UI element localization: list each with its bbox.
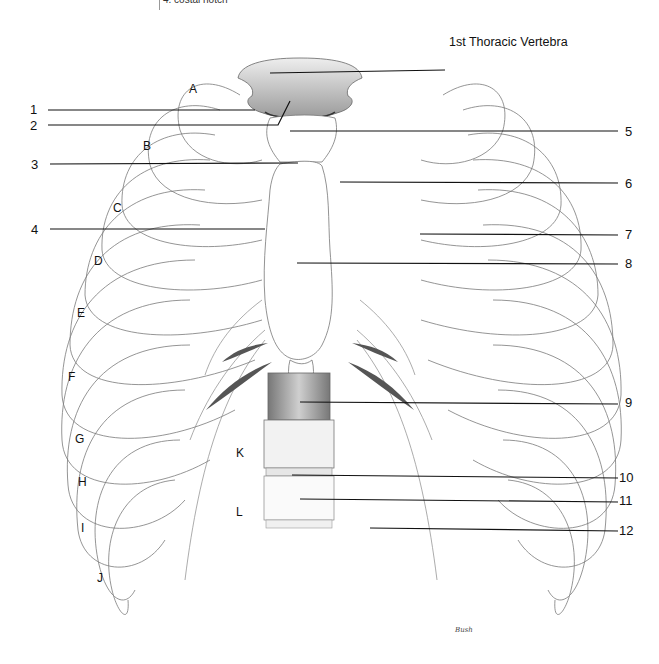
rib-label-j: J [97,572,103,585]
rib-cage-illustration [0,0,659,664]
lumbar-vertebrae [264,373,334,528]
label-number-12: 12 [619,524,633,537]
label-number-7: 7 [625,228,632,241]
label-number-11: 11 [619,494,633,507]
ribs-right [421,84,621,615]
rib-label-e: E [77,307,85,320]
rib-label-f: F [68,371,75,384]
rib-label-b: B [143,140,151,153]
artist-signature: Bush [455,626,473,634]
first-thoracic-vertebra [238,58,362,118]
sternum [264,115,336,400]
label-number-3: 3 [31,158,38,171]
rib-label-g: G [75,433,84,446]
label-number-4: 4 [31,223,38,236]
rib-label-l: L [236,506,243,519]
label-number-6: 6 [625,177,632,190]
rib-label-h: H [78,476,87,489]
label-number-2: 2 [30,119,37,132]
label-number-8: 8 [625,257,632,270]
thoracic-cage-diagram: 4. costal notch [0,0,659,664]
rib-label-k: K [236,447,244,460]
label-number-9: 9 [625,396,632,409]
rib-label-c: C [113,202,122,215]
label-first-thoracic-vertebra: 1st Thoracic Vertebra [449,36,568,49]
label-number-10: 10 [619,471,633,484]
rib-label-d: D [94,255,103,268]
rib-label-a: A [189,83,197,96]
label-number-5: 5 [625,125,632,138]
label-number-1: 1 [30,103,37,116]
rib-label-i: I [81,522,84,535]
